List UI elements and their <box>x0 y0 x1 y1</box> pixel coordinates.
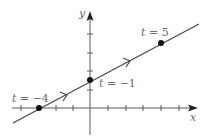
parametric-line-diagram: x y t = −4 t = −1 t = 5 <box>0 0 211 140</box>
point-t-minus-1 <box>87 77 93 83</box>
y-axis: y <box>78 7 94 135</box>
point-t-minus-4 <box>36 105 42 111</box>
label-t-5: t = 5 <box>141 26 169 39</box>
point-t-5 <box>158 40 164 46</box>
y-axis-label: y <box>78 7 86 20</box>
x-axis-label: x <box>190 111 197 124</box>
label-t-minus-1: t = −1 <box>99 77 136 90</box>
label-t-minus-4: t = −4 <box>12 92 49 105</box>
